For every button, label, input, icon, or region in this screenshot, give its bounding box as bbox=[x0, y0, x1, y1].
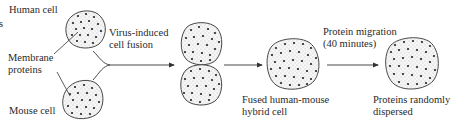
fusing-cells-icon bbox=[181, 23, 222, 105]
membrane-pointer-lower bbox=[57, 72, 70, 96]
hybrid-cell-icon bbox=[267, 39, 319, 89]
dispersed-cell-icon bbox=[386, 38, 439, 89]
mouse-cell-icon bbox=[63, 80, 103, 118]
fusion-arrow bbox=[93, 51, 174, 80]
human-cell-icon bbox=[66, 11, 105, 48]
diagram-canvas bbox=[0, 0, 459, 125]
